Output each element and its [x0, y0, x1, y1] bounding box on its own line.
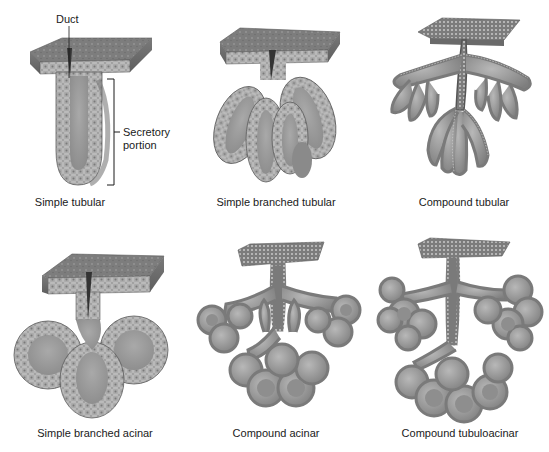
caption-compound-tubuloacinar: Compound tubuloacinar — [402, 427, 519, 439]
caption-simple-branched-acinar: Simple branched acinar — [37, 427, 153, 439]
caption-simple-branched-tubular: Simple branched tubular — [216, 196, 335, 208]
secretory-portion-label-line1: Secretory — [123, 126, 170, 139]
panel-compound-tubular: Compound tubular — [370, 0, 549, 215]
caption-compound-acinar: Compound acinar — [233, 427, 320, 439]
secretory-portion-label-line2: portion — [123, 139, 157, 152]
simple-branched-acinar-illustration — [0, 220, 190, 452]
compound-tubuloacinar-illustration — [370, 220, 549, 452]
panel-compound-tubuloacinar: Compound tubuloacinar — [370, 220, 549, 452]
caption-simple-tubular: Simple tubular — [35, 196, 105, 208]
panel-simple-branched-acinar: Simple branched acinar — [0, 220, 190, 452]
simple-branched-tubular-illustration — [190, 0, 370, 215]
caption-compound-tubular: Compound tubular — [419, 196, 510, 208]
panel-compound-acinar: Compound acinar — [190, 220, 370, 452]
simple-tubular-illustration — [0, 0, 190, 215]
duct-label: Duct — [56, 13, 79, 26]
panel-simple-branched-tubular: Simple branched tubular — [190, 0, 370, 215]
compound-acinar-illustration — [190, 220, 370, 452]
compound-tubular-illustration — [370, 0, 549, 215]
panel-simple-tubular: Duct Secretory portion Simple tubular — [0, 0, 190, 215]
